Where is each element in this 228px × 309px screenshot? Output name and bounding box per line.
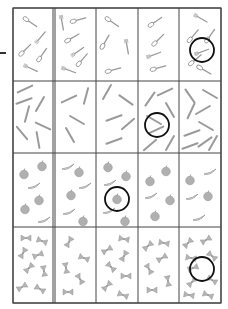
bow-pasta-icon [32, 250, 43, 259]
counting-worksheet-grid [0, 0, 228, 309]
fork-icon [23, 64, 38, 73]
pencil-icon [36, 123, 51, 130]
apple-icon [151, 211, 160, 221]
bow-pasta-icon [16, 282, 28, 292]
banana-icon [104, 180, 116, 185]
fork-icon [193, 13, 207, 23]
bow-pasta-icon [34, 284, 46, 294]
pencil-icon [184, 130, 199, 135]
fork-icon [59, 15, 65, 30]
apple-icon [122, 171, 131, 181]
spoon-icon [70, 16, 87, 24]
spoon-icon [105, 66, 122, 74]
pencil-icon [182, 143, 197, 148]
pencil-icon [122, 119, 134, 129]
pencil-icon [103, 85, 111, 99]
banana-icon [62, 164, 74, 169]
apple-icon [146, 176, 155, 186]
bow-pasta-icon [101, 280, 112, 291]
banana-icon [79, 183, 91, 188]
bow-pasta-icon [101, 245, 113, 255]
bow-pasta-icon [117, 290, 128, 299]
banana-icon [38, 217, 50, 222]
answer-circle [145, 113, 169, 137]
bow-pasta-icon [64, 236, 74, 248]
apple-icon [79, 216, 88, 226]
spoon-icon [104, 16, 120, 29]
bow-pasta-icon [206, 250, 218, 261]
pencil-icon [66, 128, 74, 142]
spoon-icon [22, 16, 38, 29]
bow-pasta-icon [121, 273, 131, 279]
bow-pasta-icon [142, 240, 154, 251]
banana-icon [28, 183, 40, 188]
pencil-icon [198, 137, 211, 146]
bow-pasta-icon [21, 235, 31, 241]
bow-pasta-icon [164, 276, 172, 287]
bow-pasta-icon [147, 287, 157, 293]
spoon-icon [196, 64, 212, 76]
bow-pasta-icon [40, 266, 48, 277]
spoon-icon [36, 47, 49, 63]
bow-pasta-icon [159, 239, 170, 247]
bow-pasta-icon [105, 261, 116, 272]
bow-pasta-icon [156, 253, 168, 263]
bow-pasta-icon [186, 254, 197, 262]
fork-icon [124, 39, 130, 54]
apple-icon [67, 190, 76, 200]
spoon-icon [18, 43, 32, 57]
apple-icon [186, 175, 195, 185]
pencil-icon [36, 97, 44, 111]
spoon-icon [64, 32, 80, 44]
apple-icon [162, 166, 171, 176]
bow-pasta-icon [200, 235, 212, 245]
picture-items [16, 13, 218, 299]
pencil-icon [199, 122, 213, 130]
pencil-icon [196, 106, 210, 114]
answer-circle [190, 257, 214, 281]
bow-pasta-icon [63, 289, 73, 295]
bow-pasta-icon [186, 276, 197, 287]
apple-icon [121, 216, 130, 226]
pencil-icon [119, 95, 132, 104]
bow-pasta-icon [119, 250, 129, 262]
pencil-icon [84, 88, 88, 103]
bow-pasta-icon [62, 263, 70, 274]
pencil-icon [147, 116, 161, 124]
pencil-icon [166, 136, 174, 150]
pencil-icon [144, 140, 156, 150]
bow-pasta-icon [202, 290, 213, 299]
pencil-icon [106, 115, 121, 120]
pencil-icon [37, 132, 40, 148]
banana-icon [186, 194, 198, 199]
apple-icon [204, 191, 213, 201]
bow-pasta-icon [144, 263, 154, 275]
pencil-icon [70, 116, 84, 124]
answer-circle [190, 38, 214, 62]
pencil-icon [188, 104, 195, 119]
pencil-icon [62, 96, 77, 103]
fork-icon [34, 31, 46, 44]
pencil-icon [145, 92, 154, 105]
pencil-icon [203, 90, 217, 98]
pencil-icon [17, 127, 27, 139]
bow-pasta-icon [119, 235, 130, 243]
spoon-icon [99, 34, 111, 50]
fork-icon [61, 66, 76, 74]
bow-pasta-icon [36, 236, 47, 245]
banana-icon [63, 209, 75, 214]
bow-pasta-icon [187, 263, 198, 272]
pencil-icon [158, 89, 173, 96]
bow-pasta-icon [78, 253, 89, 262]
fork-icon [146, 51, 161, 59]
bow-pasta-icon [18, 247, 28, 259]
pencil-icon [166, 103, 174, 117]
spoon-icon [150, 64, 167, 72]
apple-icon [75, 167, 84, 177]
banana-icon [204, 169, 216, 174]
apple-icon [166, 195, 175, 205]
bow-pasta-icon [182, 237, 193, 248]
banana-icon [193, 215, 205, 220]
pencil-icon [149, 127, 164, 134]
bow-pasta-icon [184, 291, 195, 299]
